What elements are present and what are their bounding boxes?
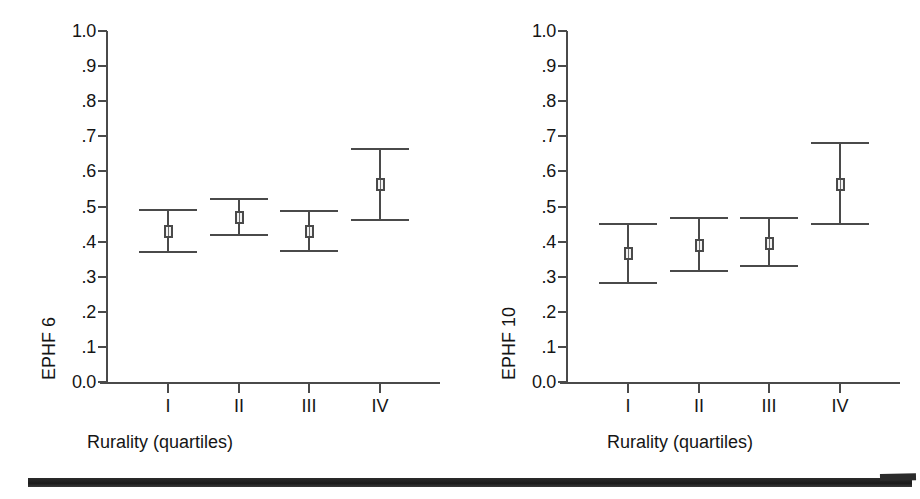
error-bar-upper-cap	[740, 217, 798, 219]
y-tick-label: .3	[26, 268, 96, 286]
error-bar-upper-cap	[811, 142, 869, 144]
y-tick-label: .6	[486, 162, 556, 180]
y-axis-line-left	[106, 31, 108, 384]
data-point-marker-core	[168, 227, 169, 236]
x-tick-label: IV	[360, 396, 400, 416]
y-tick-label: 0.0	[486, 373, 556, 391]
y-tick-label: .2	[26, 303, 96, 321]
error-bar-lower-cap	[139, 251, 197, 253]
page-edge-scan-artifact	[28, 478, 912, 487]
y-tick-mark	[98, 30, 107, 32]
y-tick-mark	[98, 276, 107, 278]
plot-area-left: 0.0.1.2.3.4.5.6.7.8.91.0 IIIIIIIV EPHF 6	[0, 0, 460, 400]
x-tick-mark	[308, 384, 310, 393]
y-tick-label: .4	[486, 233, 556, 251]
y-tick-mark	[558, 381, 567, 383]
y-tick-label: .9	[26, 57, 96, 75]
x-axis-line-right	[560, 382, 900, 384]
y-tick-label: .5	[26, 198, 96, 216]
data-point-marker-core	[239, 213, 240, 222]
data-point-marker-core	[380, 180, 381, 189]
y-tick-label: .2	[486, 303, 556, 321]
error-bar-lower-cap	[740, 265, 798, 267]
data-point-marker	[235, 211, 244, 224]
y-tick-label: .8	[26, 92, 96, 110]
error-bar-upper-cap	[139, 209, 197, 211]
y-tick-label: 0.0	[26, 373, 96, 391]
y-tick-label: .8	[486, 92, 556, 110]
y-tick-label: .1	[26, 338, 96, 356]
data-point-marker-core	[840, 180, 841, 189]
y-axis-label-right: EPHF 10	[500, 307, 518, 380]
x-tick-label: II	[679, 396, 719, 416]
plot-area-right: 0.0.1.2.3.4.5.6.7.8.91.0 IIIIIIIV EPHF 1…	[460, 0, 920, 400]
data-point-marker-core	[699, 241, 700, 250]
page-edge-scan-artifact-tail	[880, 473, 916, 481]
x-tick-mark	[698, 384, 700, 393]
y-tick-label: .6	[26, 162, 96, 180]
y-tick-mark	[558, 276, 567, 278]
x-axis-label-right: Rurality (quartiles)	[560, 432, 800, 452]
x-tick-label: III	[749, 396, 789, 416]
y-tick-mark	[558, 30, 567, 32]
error-bar-lower-cap	[210, 234, 268, 236]
x-tick-mark	[627, 384, 629, 393]
data-point-marker-core	[628, 249, 629, 258]
y-tick-label: 1.0	[26, 22, 96, 40]
data-point-marker-core	[769, 239, 770, 248]
y-tick-mark	[558, 170, 567, 172]
chart-panel-left: 0.0.1.2.3.4.5.6.7.8.91.0 IIIIIIIV EPHF 6…	[0, 0, 460, 470]
y-tick-label: .1	[486, 338, 556, 356]
data-point-marker	[695, 239, 704, 252]
x-tick-label: III	[289, 396, 329, 416]
data-point-marker	[624, 247, 633, 260]
data-point-marker	[836, 178, 845, 191]
data-point-marker-core	[309, 227, 310, 236]
error-bar-upper-cap	[351, 148, 409, 150]
x-tick-mark	[238, 384, 240, 393]
x-axis-label-left: Rurality (quartiles)	[40, 432, 280, 452]
y-tick-label: .9	[486, 57, 556, 75]
y-tick-mark	[558, 135, 567, 137]
data-point-marker	[305, 225, 314, 238]
data-point-marker	[376, 178, 385, 191]
y-tick-label: .4	[26, 233, 96, 251]
x-tick-label: I	[148, 396, 188, 416]
error-bar-lower-cap	[811, 223, 869, 225]
y-tick-mark	[558, 346, 567, 348]
error-bar-lower-cap	[599, 282, 657, 284]
y-tick-mark	[98, 346, 107, 348]
x-tick-mark	[768, 384, 770, 393]
error-bar-upper-cap	[670, 217, 728, 219]
y-tick-mark	[98, 170, 107, 172]
x-tick-mark	[167, 384, 169, 393]
error-bar-upper-cap	[280, 210, 338, 212]
error-bar-upper-cap	[599, 223, 657, 225]
y-tick-mark	[98, 241, 107, 243]
x-tick-label: IV	[820, 396, 860, 416]
y-tick-mark	[558, 100, 567, 102]
x-tick-label: I	[608, 396, 648, 416]
y-tick-label: .3	[486, 268, 556, 286]
y-tick-mark	[558, 65, 567, 67]
y-tick-mark	[98, 311, 107, 313]
x-tick-mark	[379, 384, 381, 393]
error-bar-lower-cap	[280, 250, 338, 252]
error-bar-lower-cap	[351, 219, 409, 221]
figure-canvas: 0.0.1.2.3.4.5.6.7.8.91.0 IIIIIIIV EPHF 6…	[0, 0, 920, 499]
y-tick-mark	[558, 311, 567, 313]
x-tick-label: II	[219, 396, 259, 416]
y-tick-mark	[98, 65, 107, 67]
y-tick-label: .7	[486, 127, 556, 145]
y-tick-mark	[98, 100, 107, 102]
y-tick-label: .7	[26, 127, 96, 145]
y-tick-mark	[558, 241, 567, 243]
y-tick-mark	[98, 206, 107, 208]
y-tick-mark	[558, 206, 567, 208]
y-axis-line-right	[566, 31, 568, 384]
y-tick-mark	[98, 381, 107, 383]
error-bar-upper-cap	[210, 198, 268, 200]
y-tick-mark	[98, 135, 107, 137]
y-axis-label-left: EPHF 6	[40, 317, 58, 380]
x-axis-line-left	[100, 382, 440, 384]
